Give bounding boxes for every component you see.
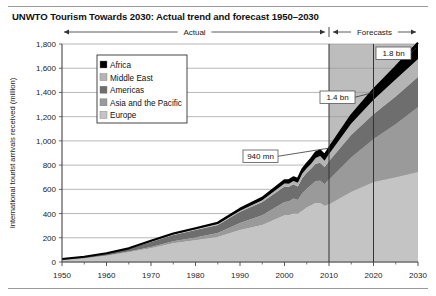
- legend-label-europe: Europe: [110, 111, 137, 120]
- ytick-label-0: 0: [52, 258, 57, 267]
- ytick-label-1: 200: [43, 234, 57, 243]
- legend-swatch-asia-and-the-pacific: [100, 99, 107, 106]
- ytick-label-7: 1,400: [36, 88, 57, 97]
- xtick-label-2: 1970: [142, 271, 160, 280]
- chart-plot: 02004006008001,0001,2001,4001,6001,80019…: [0, 0, 436, 296]
- legend-label-middle-east: Middle East: [110, 74, 154, 83]
- ytick-label-6: 1,200: [36, 113, 57, 122]
- ytick-label-8: 1,600: [36, 64, 57, 73]
- legend-label-africa: Africa: [110, 61, 131, 70]
- chart-figure: UNWTO Tourism Towards 2030: Actual trend…: [0, 0, 436, 296]
- ytick-label-3: 600: [43, 185, 57, 194]
- span-arrow-right-actual: [320, 29, 325, 34]
- legend-label-asia-and-the-pacific: Asia and the Pacific: [110, 99, 182, 108]
- span-label-forecasts: Forecasts: [357, 28, 392, 37]
- xtick-label-7: 2020: [365, 271, 383, 280]
- span-label-actual: Actual: [183, 28, 205, 37]
- y-axis-title: International tourist arrivals received …: [8, 77, 17, 228]
- callout-label-a: 940 mn: [247, 152, 274, 161]
- xtick-label-1: 1960: [98, 271, 116, 280]
- ytick-label-4: 800: [43, 161, 57, 170]
- callout-label-b: 1.4 bn: [326, 93, 348, 102]
- xtick-label-3: 1980: [187, 271, 205, 280]
- xtick-label-0: 1950: [53, 271, 71, 280]
- ytick-label-9: 1,800: [36, 40, 57, 49]
- ytick-label-5: 1,000: [36, 137, 57, 146]
- xtick-label-6: 2010: [320, 271, 338, 280]
- xtick-label-4: 1990: [231, 271, 249, 280]
- legend-swatch-africa: [100, 61, 107, 68]
- span-arrow-right-forecasts: [411, 29, 416, 34]
- callout-label-c: 1.8 bn: [382, 49, 404, 58]
- span-arrow-left-actual: [64, 29, 69, 34]
- legend-swatch-middle-east: [100, 74, 107, 81]
- ytick-label-2: 400: [43, 210, 57, 219]
- xtick-label-8: 2030: [409, 271, 427, 280]
- xtick-label-5: 2000: [276, 271, 294, 280]
- span-arrow-left-forecasts: [333, 29, 338, 34]
- legend-swatch-americas: [100, 86, 107, 93]
- legend-label-americas: Americas: [110, 86, 144, 95]
- legend-swatch-europe: [100, 111, 107, 118]
